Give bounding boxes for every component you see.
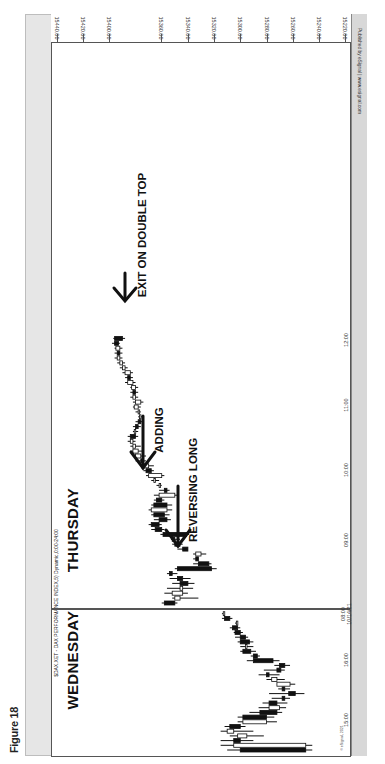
annotation-arrows	[0, 0, 385, 764]
arrow-icon-exit	[114, 273, 136, 301]
annotation-reversing-long: REVERSING LONG	[185, 430, 201, 550]
annotation-adding: ADDING	[151, 395, 167, 465]
annotation-exit-double-top: EXIT ON DOUBLE TOP	[134, 170, 150, 300]
